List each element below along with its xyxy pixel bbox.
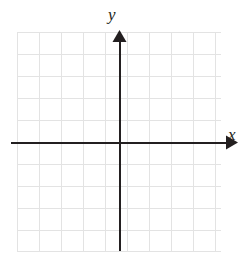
coordinate-plane-figure: y x: [0, 0, 239, 258]
x-axis-label: x: [228, 126, 236, 143]
y-axis-label: y: [108, 6, 116, 23]
coordinate-grid: [0, 0, 239, 258]
y-axis: [113, 30, 127, 251]
x-axis: [11, 136, 238, 150]
y-axis-arrowhead-icon: [113, 30, 127, 42]
